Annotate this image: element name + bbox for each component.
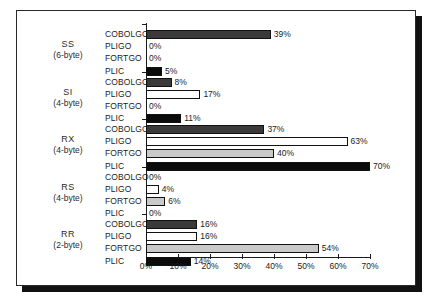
bar-plic [146, 67, 162, 76]
series-label-cobolgo: COBOLGO [105, 124, 149, 135]
bar-row: PLIC11% [17, 113, 415, 124]
bar-row: FORTGO54% [17, 243, 415, 254]
chart-figure: SS(6-byte)COBOLGO39%PLIGO0%FORTGO0%PLIC5… [0, 0, 430, 305]
x-axis-tick-label: 30% [233, 261, 250, 271]
x-axis-tick [306, 254, 307, 259]
series-label-pligo: PLIGO [105, 89, 149, 100]
series-label-cobolgo: COBOLGO [105, 29, 149, 40]
bar-value-label: 11% [184, 113, 200, 124]
x-axis-tick-label: 20% [201, 261, 218, 271]
bar-row: PLIC5% [17, 66, 415, 77]
bar-row: COBOLGO37% [17, 124, 415, 135]
bar-row: PLIGO16% [17, 231, 415, 242]
bar-value-label: 16% [200, 219, 217, 230]
x-axis-tick [210, 254, 211, 259]
series-label-fortgo: FORTGO [105, 243, 149, 254]
bar-pligo [146, 90, 200, 99]
x-axis-tick [370, 254, 371, 259]
bar-row: FORTGO0% [17, 101, 415, 112]
x-axis-tick [178, 254, 179, 259]
bar-row: PLIGO63% [17, 136, 415, 147]
bar-value-label: 0% [149, 41, 161, 52]
bar-value-label: 0% [149, 53, 161, 64]
series-label-pligo: PLIGO [105, 41, 149, 52]
x-axis-tick [242, 254, 243, 259]
series-label-fortgo: FORTGO [105, 101, 149, 112]
series-label-pligo: PLIGO [105, 136, 149, 147]
bar-fortgo [146, 197, 165, 206]
series-label-cobolgo: COBOLGO [105, 172, 149, 183]
x-axis-tick-label: 50% [297, 261, 314, 271]
bar-value-label: 63% [351, 136, 368, 147]
bar-cobolgo [146, 125, 264, 134]
x-axis-tick-label: 40% [265, 261, 282, 271]
group-tick [142, 214, 147, 215]
x-axis-tick-label: 10% [169, 261, 186, 271]
bar-pligo [146, 232, 197, 241]
bar-value-label: 8% [175, 77, 187, 88]
bar-cobolgo [146, 220, 197, 229]
group-tick [142, 72, 147, 73]
figure-frame: SS(6-byte)COBOLGO39%PLIGO0%FORTGO0%PLIC5… [16, 10, 416, 286]
group-tick [142, 24, 147, 25]
series-label-fortgo: FORTGO [105, 196, 149, 207]
bar-value-label: 4% [162, 184, 174, 195]
bar-value-label: 17% [203, 89, 220, 100]
bar-row: FORTGO0% [17, 53, 415, 64]
bar-value-label: 37% [267, 124, 284, 135]
bar-value-label: 0% [149, 101, 161, 112]
bar-value-label: 39% [274, 29, 291, 40]
bar-cobolgo [146, 30, 271, 39]
bar-cobolgo [146, 78, 172, 87]
x-axis-tick-label: 0% [140, 261, 152, 271]
plot-area: SS(6-byte)COBOLGO39%PLIGO0%FORTGO0%PLIC5… [17, 11, 415, 285]
bar-row: FORTGO40% [17, 148, 415, 159]
bar-row: COBOLGO39% [17, 29, 415, 40]
bar-row: PLIC0% [17, 208, 415, 219]
series-label-fortgo: FORTGO [105, 53, 149, 64]
bar-value-label: 0% [149, 172, 161, 183]
bar-row: FORTGO6% [17, 196, 415, 207]
bar-value-label: 40% [277, 148, 294, 159]
bar-row: PLIGO17% [17, 89, 415, 100]
x-axis-tick [338, 254, 339, 259]
bar-row: COBOLGO16% [17, 219, 415, 230]
series-label-cobolgo: COBOLGO [105, 77, 149, 88]
bar-value-label: 16% [200, 231, 217, 242]
bar-row: COBOLGO8% [17, 77, 415, 88]
group-tick [142, 167, 147, 168]
bar-plic [146, 114, 181, 123]
x-axis-tick [274, 254, 275, 259]
bar-row: COBOLGO0% [17, 172, 415, 183]
x-axis-tick-label: 70% [361, 261, 378, 271]
bar-pligo [146, 185, 159, 194]
bar-pligo [146, 137, 348, 146]
bar-plic [146, 162, 370, 171]
bar-row: PLIGO4% [17, 184, 415, 195]
bar-value-label: 6% [168, 196, 180, 207]
bar-value-label: 5% [165, 66, 177, 77]
series-label-pligo: PLIGO [105, 231, 149, 242]
series-label-cobolgo: COBOLGO [105, 219, 149, 230]
bar-row: PLIC70% [17, 161, 415, 172]
series-label-pligo: PLIGO [105, 184, 149, 195]
bar-row: PLIGO0% [17, 41, 415, 52]
bar-fortgo [146, 149, 274, 158]
series-label-fortgo: FORTGO [105, 148, 149, 159]
bar-value-label: 0% [149, 208, 161, 219]
group-tick [142, 119, 147, 120]
bar-fortgo [146, 244, 319, 253]
x-axis-tick-label: 60% [329, 261, 346, 271]
bar-value-label: 54% [322, 243, 339, 254]
bar-value-label: 70% [373, 161, 390, 172]
